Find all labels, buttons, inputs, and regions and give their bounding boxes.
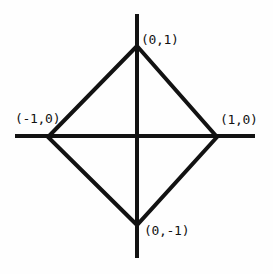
vertex-label-right: (1,0) <box>220 113 258 126</box>
figure-canvas: (0,1) (-1,0) (1,0) (0,-1) <box>0 0 273 274</box>
vertex-label-bottom: (0,-1) <box>144 224 189 237</box>
vertex-label-top: (0,1) <box>141 33 179 46</box>
vertex-label-left: (-1,0) <box>15 112 60 125</box>
diagram-svg <box>0 0 273 274</box>
